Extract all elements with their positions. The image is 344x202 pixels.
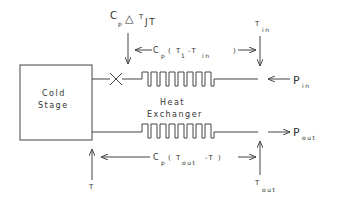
svg-text:( T: ( T xyxy=(168,154,182,162)
jt-valve-icon xyxy=(110,73,122,85)
pout-sub: out xyxy=(302,134,316,141)
svg-text:-T: -T xyxy=(188,47,197,55)
svg-text:JT: JT xyxy=(144,17,156,27)
svg-text:p: p xyxy=(161,159,166,167)
bottom-flow-line xyxy=(92,124,290,138)
t-label: T xyxy=(88,183,95,191)
pout-label: P xyxy=(293,126,301,139)
tout-label: T xyxy=(254,179,261,187)
top-enthalpy-label: C p ( T 1 -T in ) xyxy=(135,46,256,60)
tin-sub: in xyxy=(262,26,270,33)
tin-label: T xyxy=(254,20,261,28)
top-flow-line xyxy=(92,72,290,86)
bottom-enthalpy-label: C p ( T out -T ) xyxy=(101,153,256,167)
pin-label: P xyxy=(293,74,301,87)
svg-text:C: C xyxy=(153,46,160,55)
svg-text:C: C xyxy=(153,153,160,162)
svg-text:-T ): -T ) xyxy=(205,154,222,162)
heat-exchanger-label-1: Heat xyxy=(160,98,185,107)
svg-text:out: out xyxy=(182,159,196,166)
heat-exchanger-label-2: Exchanger xyxy=(147,110,203,119)
svg-text:( T: ( T xyxy=(168,47,182,55)
svg-text:T: T xyxy=(138,13,145,21)
cold-stage-label-1: Cold xyxy=(42,89,66,98)
svg-text:1: 1 xyxy=(181,52,186,59)
svg-text:p: p xyxy=(118,20,123,28)
pin-sub: in xyxy=(302,82,310,89)
heat-exchanger-coil-bottom xyxy=(92,124,258,138)
svg-text:p: p xyxy=(161,52,166,60)
cold-stage-label-2: Stage xyxy=(38,101,69,110)
svg-text:): ) xyxy=(233,47,237,55)
tout-sub: out xyxy=(262,186,276,193)
jt-enthalpy-label: C p △ T JT xyxy=(110,10,156,28)
svg-text:in: in xyxy=(202,52,210,59)
svg-text:△: △ xyxy=(125,12,135,25)
heat-exchanger-coil-top xyxy=(140,72,258,86)
heat-exchanger-diagram: Cold Stage Heat Exchanger C p △ T JT C p… xyxy=(0,0,344,202)
